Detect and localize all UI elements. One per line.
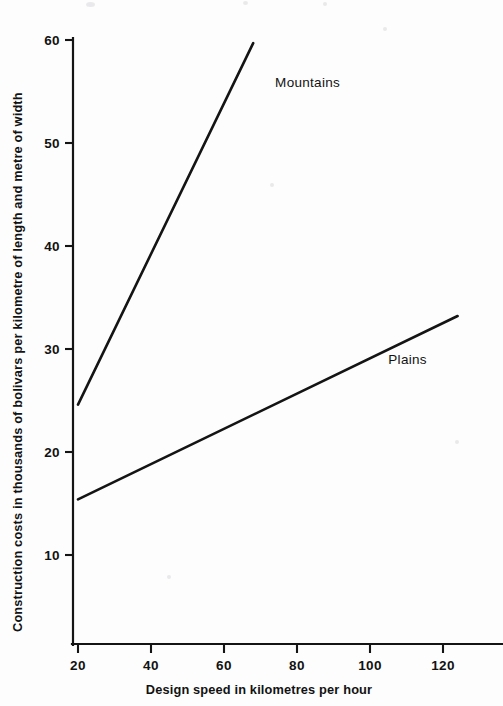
x-axis-ticks	[78, 644, 443, 653]
x-tick-label-100: 100	[358, 658, 382, 673]
scan-speck	[243, 1, 248, 5]
x-tick-label-20: 20	[70, 658, 86, 673]
series-line-mountains	[78, 43, 253, 405]
y-tick-label-50: 50	[44, 136, 60, 151]
scan-speck	[270, 183, 274, 187]
scan-speck	[383, 27, 387, 31]
series-line-plains	[78, 316, 458, 499]
x-tick-label-120: 120	[431, 658, 455, 673]
series-label-plains: Plains	[388, 352, 427, 367]
y-tick-label-20: 20	[44, 445, 60, 460]
chart-canvas: Construction costs in thousands of boliv…	[0, 0, 503, 706]
x-axis-tick-labels: 20 40 60 80 100 120	[70, 658, 455, 673]
series-label-mountains: Mountains	[275, 75, 340, 90]
series-group	[78, 43, 458, 499]
x-tick-label-80: 80	[289, 658, 305, 673]
y-tick-label-60: 60	[44, 33, 60, 48]
x-axis-title: Design speed in kilometres per hour	[146, 682, 372, 697]
y-tick-label-10: 10	[44, 548, 60, 563]
y-tick-label-40: 40	[44, 239, 60, 254]
x-tick-label-60: 60	[216, 658, 232, 673]
y-tick-label-30: 30	[44, 342, 60, 357]
x-tick-label-40: 40	[143, 658, 159, 673]
chart-figure: Construction costs in thousands of boliv…	[0, 0, 503, 706]
scan-speck	[86, 2, 95, 7]
scan-speck	[455, 440, 459, 444]
y-axis-tick-labels: 60 50 40 30 20 10	[44, 33, 60, 563]
scan-speck	[323, 2, 327, 6]
scan-speck	[167, 575, 171, 579]
y-axis-ticks	[65, 40, 73, 555]
y-axis-title: Construction costs in thousands of boliv…	[10, 92, 25, 632]
